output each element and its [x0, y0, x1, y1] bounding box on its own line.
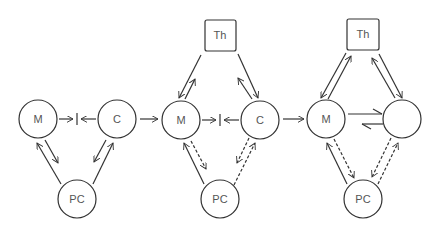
- label-pc-panel2: PC: [200, 192, 240, 206]
- arrows-th-m-panel3: [321, 53, 351, 99]
- label-pc-panel3: PC: [343, 192, 383, 206]
- arrows-pc-m-panel3: [327, 139, 354, 184]
- arrows-pc-x-panel3: [372, 138, 398, 184]
- node-unlabeled-panel3: [383, 100, 421, 138]
- blocked-arrows-m-c-panel1: [59, 113, 96, 125]
- arrows-th-m-panel2: [179, 55, 201, 99]
- label-c-panel1: C: [97, 112, 137, 126]
- arrows-th-x-panel3: [372, 54, 402, 98]
- label-m-panel1: M: [18, 112, 58, 126]
- arrows-th-c-panel2: [238, 54, 258, 99]
- state-transition-diagram: M C PC Th M C PC Th M PC: [0, 0, 440, 236]
- label-m-panel3: M: [306, 112, 346, 126]
- harpoons-m-x-panel3: [348, 109, 383, 129]
- blocked-arrows-m-c-panel2: [202, 114, 239, 126]
- label-th-panel3: Th: [343, 27, 383, 41]
- arrows-pc-c-panel1: [93, 140, 113, 184]
- label-th-panel2: Th: [200, 28, 240, 42]
- arrows-pc-m-panel1: [37, 140, 61, 184]
- label-pc-panel1: PC: [57, 192, 97, 206]
- label-m-panel2: M: [161, 113, 201, 127]
- arrows-pc-m-panel2: [184, 141, 206, 184]
- arrows-pc-c-panel2: [234, 138, 255, 185]
- label-c-panel2: C: [240, 113, 280, 127]
